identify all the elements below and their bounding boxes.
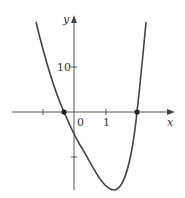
root-point-left [61, 109, 66, 114]
y-tick-label-10: 10 [57, 61, 71, 74]
x-tick-label-0: 0 [77, 116, 84, 129]
function-curve [36, 22, 146, 190]
y-axis-arrow-icon [71, 15, 77, 23]
x-axis-arrow-icon [167, 109, 175, 115]
root-point-right [134, 109, 139, 114]
y-axis-label: y [62, 13, 70, 26]
x-tick-label-1: 1 [103, 116, 110, 129]
chart: y x 10 0 1 [0, 0, 185, 198]
x-axis-label: x [167, 116, 174, 129]
